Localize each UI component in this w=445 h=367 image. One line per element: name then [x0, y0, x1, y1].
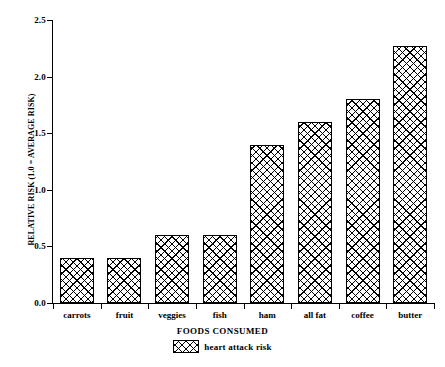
x-axis-tick — [434, 303, 435, 309]
bar-ham — [250, 145, 284, 303]
x-axis-tick-label: ham — [244, 311, 292, 320]
chart-legend: heart attack risk — [0, 340, 445, 353]
x-axis-tick-label: carrots — [53, 311, 101, 320]
x-axis-tick-label: all fat — [291, 311, 339, 320]
x-axis-tick — [244, 303, 245, 309]
y-axis-title: RELATIVE RISK (1.0 = AVERAGE RISK) — [27, 80, 36, 260]
legend-item-heart-attack-risk: heart attack risk — [173, 340, 271, 353]
x-axis-tick-label: coffee — [339, 311, 387, 320]
bar-fish — [203, 235, 237, 303]
x-axis-tick-label: butter — [386, 311, 434, 320]
x-axis-tick-label: fish — [196, 311, 244, 320]
x-axis-tick — [196, 303, 197, 309]
legend-swatch-icon — [173, 340, 199, 353]
chart-figure: 0.00.51.01.52.02.5 carrotsfruitveggiesfi… — [0, 0, 445, 367]
x-axis-tick — [148, 303, 149, 309]
bar-butter — [393, 46, 427, 303]
y-axis-tick — [47, 246, 53, 247]
bar-coffee — [346, 99, 380, 303]
y-axis-tick — [47, 77, 53, 78]
bar-veggies — [155, 235, 189, 303]
bar-carrots — [60, 258, 94, 303]
y-axis-tick-label: 2.5 — [6, 16, 46, 25]
y-axis-tick — [47, 20, 53, 21]
bar-fruit — [107, 258, 141, 303]
y-axis-line — [52, 20, 53, 304]
legend-item-label: heart attack risk — [204, 342, 271, 352]
y-axis-tick — [47, 190, 53, 191]
x-axis-tick — [386, 303, 387, 309]
y-axis-tick-label: 0.0 — [6, 299, 46, 308]
bar-all-fat — [298, 122, 332, 303]
x-axis-tick-label: fruit — [101, 311, 149, 320]
x-axis-tick — [101, 303, 102, 309]
x-axis-tick — [291, 303, 292, 309]
x-axis-tick-label: veggies — [148, 311, 196, 320]
x-axis-title: FOODS CONSUMED — [0, 326, 445, 336]
y-axis-tick — [47, 133, 53, 134]
x-axis-tick — [339, 303, 340, 309]
x-axis-tick — [53, 303, 54, 309]
